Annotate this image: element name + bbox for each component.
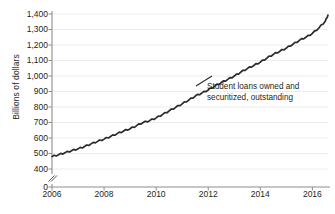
series-annotation-line-2: securitized, outstanding bbox=[207, 93, 299, 104]
y-axis-break-icon bbox=[49, 174, 58, 184]
plot-area bbox=[0, 0, 335, 214]
break-mask bbox=[49, 174, 57, 184]
series-annotation-line-1: Student loans owned and bbox=[207, 82, 299, 93]
series-annotation: Student loans owned and securitized, out… bbox=[207, 82, 299, 103]
chart-container: Billions of dollars 04005006007008009001… bbox=[0, 0, 335, 214]
